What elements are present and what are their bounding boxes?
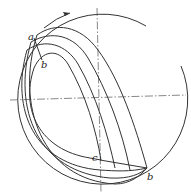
channel-curve-2 [31, 36, 130, 170]
label-c-bottom: c [92, 152, 98, 163]
horizontal-centerline [10, 95, 186, 100]
cb-bottom-line [100, 160, 147, 168]
label-b-bottom: b [147, 171, 153, 182]
label-b-top: b [41, 59, 47, 70]
label-a-top: a [28, 31, 34, 42]
diagram-canvas: a b c b [0, 0, 191, 196]
vertical-centerline [97, 8, 101, 192]
